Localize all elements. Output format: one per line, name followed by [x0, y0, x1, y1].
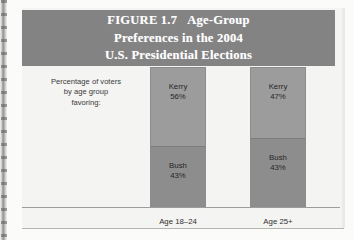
segment-value-bush: 43%	[251, 163, 305, 173]
segment-value-kerry: 47%	[251, 92, 305, 102]
bar-segment-kerry: Kerry 56%	[151, 68, 205, 146]
figure-title-line-2: Preferences in the 2004	[22, 30, 335, 48]
segment-label-bush: Bush	[151, 161, 205, 171]
chart-plot-area: Percentage of voters by age group favori…	[22, 66, 342, 228]
segment-label-kerry: Kerry	[151, 82, 205, 92]
figure-title-line-3: U.S. Presidential Elections	[22, 47, 335, 65]
segment-label-kerry: Kerry	[251, 82, 305, 92]
bar-group-age-25-plus: Kerry 47% Bush 43%	[250, 67, 306, 207]
x-axis-line	[22, 207, 340, 208]
bar-segment-bush: Bush 43%	[151, 146, 205, 206]
legend-caption-line-2: by age group	[26, 87, 146, 97]
legend-caption: Percentage of voters by age group favori…	[26, 77, 146, 108]
figure-number: FIGURE 1.7	[107, 13, 177, 27]
bar-segment-bush: Bush 43%	[251, 138, 305, 206]
x-axis-tick-label-age-18-24: Age 18–24	[133, 217, 223, 226]
x-axis-tick-label-age-25-plus: Age 25+	[233, 217, 323, 226]
segment-value-kerry: 56%	[151, 92, 205, 102]
legend-caption-line-1: Percentage of voters	[26, 77, 146, 87]
segment-label-bush: Bush	[251, 153, 305, 163]
bar-segment-kerry: Kerry 47%	[251, 68, 305, 138]
figure-title-topic: Age-Group	[187, 13, 249, 27]
legend-caption-line-3: favoring:	[26, 98, 146, 108]
panel-right-shade	[342, 8, 345, 228]
stacked-bar: Kerry 56% Bush 43%	[150, 67, 206, 207]
bar-group-age-18-24: Kerry 56% Bush 43%	[150, 67, 206, 207]
panel-bottom-rule	[22, 228, 344, 229]
figure-title-line-1: FIGURE 1.7Age-Group	[22, 12, 335, 30]
segment-value-bush: 43%	[151, 171, 205, 181]
figure-title-banner: FIGURE 1.7Age-Group Preferences in the 2…	[22, 10, 335, 66]
stacked-bar: Kerry 47% Bush 43%	[250, 67, 306, 207]
